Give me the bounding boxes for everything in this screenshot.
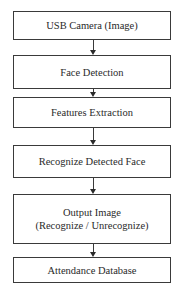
node-label-line1: Output Image — [63, 206, 121, 219]
node-label-line2: (Recognize / Unrecognize) — [35, 219, 148, 232]
node-face-detection: Face Detection — [13, 55, 171, 89]
node-label: Recognize Detected Face — [39, 155, 146, 168]
node-label: Features Extraction — [51, 106, 133, 119]
node-label: Attendance Database — [48, 264, 137, 277]
node-attendance-database: Attendance Database — [13, 257, 171, 283]
node-output-image: Output Image (Recognize / Unrecognize) — [13, 194, 171, 244]
node-label: USB Camera (Image) — [46, 19, 138, 32]
node-recognize-detected-face: Recognize Detected Face — [13, 145, 171, 178]
node-label: Face Detection — [60, 66, 123, 79]
node-features-extraction: Features Extraction — [13, 97, 171, 128]
node-usb-camera: USB Camera (Image) — [13, 11, 171, 40]
